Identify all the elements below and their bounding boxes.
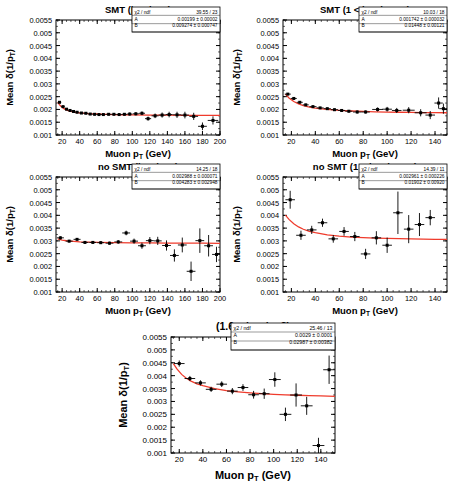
y-axis-label: Mean δ(1/pT)	[231, 49, 243, 106]
y-tick-label: 0.0025	[143, 410, 168, 419]
y-tick-label: 0.001	[34, 131, 53, 140]
x-tick-label: 180	[196, 294, 208, 303]
stat-value: 14.25 / 18	[196, 167, 218, 172]
y-tick-label: 0.002	[34, 262, 53, 271]
y-tick-label: 0.001	[147, 449, 168, 458]
stat-value: 0.01448 ± 0.00121	[405, 23, 445, 28]
y-tick-label: 0.0055	[143, 333, 168, 342]
x-tick-label: 160	[179, 137, 191, 146]
y-tick-label: 0.0035	[29, 224, 52, 233]
stat-value: 0.009274 ± 0.000747	[172, 23, 218, 28]
y-tick-label: 0.004	[147, 372, 168, 381]
y-tick-label: 0.001	[261, 288, 280, 297]
x-tick-label: 120	[405, 294, 417, 303]
x-tick-label: 60	[335, 137, 343, 146]
y-tick-label: 0.003	[261, 237, 280, 246]
y-tick-label: 0.0015	[256, 118, 279, 127]
y-tick-label: 0.0045	[256, 199, 279, 208]
y-tick-label: 0.005	[261, 29, 280, 38]
y-tick-label: 0.002	[261, 105, 280, 114]
stat-label: χ2 / ndf	[135, 167, 152, 172]
y-tick-label: 0.0025	[256, 250, 279, 259]
x-tick-label: 140	[429, 137, 441, 146]
x-tick-label: 40	[311, 137, 319, 146]
x-tick-label: 100	[381, 137, 393, 146]
panel-smt-eta-lt-1: SMT (|ηdet| < 1)0.0010.00150.0020.00250.…	[0, 0, 228, 165]
x-tick-label: 60	[335, 294, 343, 303]
y-axis-label: Mean δ(1/pT)	[4, 49, 16, 106]
y-tick-label: 0.0035	[143, 385, 168, 394]
y-tick-label: 0.0045	[143, 359, 168, 368]
y-tick-label: 0.003	[261, 80, 280, 89]
stat-value: 39.55 / 23	[196, 10, 218, 15]
stat-value: 0.004283 ± 0.002948	[172, 180, 218, 185]
plot-svg: no SMT (|ηdet| < 1)0.0010.00150.0020.002…	[0, 157, 228, 322]
y-tick-label: 0.001	[34, 288, 53, 297]
stat-label: B	[135, 23, 138, 28]
stat-label: B	[234, 339, 238, 345]
panel-eta-1p6-2: (1.6 < |ηdet| < 2)0.0010.00150.0020.0025…	[113, 315, 345, 487]
y-tick-label: 0.0055	[256, 16, 279, 25]
y-tick-label: 0.0015	[143, 436, 168, 445]
y-tick-label: 0.001	[261, 131, 280, 140]
x-tick-label: 20	[58, 137, 66, 146]
stats-box: χ2 / ndf39.55 / 23A0.00199 ± 0.00002B0.0…	[132, 7, 220, 32]
stats-box: χ2 / ndf25.46 / 13A0.0029 ± 0.0001B0.029…	[231, 323, 335, 350]
x-tick-label: 140	[161, 137, 173, 146]
y-tick-label: 0.0055	[29, 173, 52, 182]
y-tick-label: 0.0015	[29, 275, 52, 284]
y-tick-label: 0.004	[34, 211, 53, 220]
plot-svg: (1.6 < |ηdet| < 2)0.0010.00150.0020.0025…	[113, 315, 345, 487]
data-points	[174, 356, 335, 453]
y-tick-label: 0.004	[261, 54, 280, 63]
y-tick-label: 0.0045	[29, 42, 52, 51]
stat-value: 0.00199 ± 0.00002	[178, 17, 218, 22]
plot-frame	[283, 20, 447, 135]
stat-label: B	[135, 180, 138, 185]
fit-curve	[173, 364, 335, 397]
y-tick-label: 0.004	[261, 211, 280, 220]
y-tick-label: 0.003	[34, 80, 53, 89]
data-points	[285, 93, 447, 120]
fit-curve	[285, 94, 447, 113]
y-tick-label: 0.0035	[256, 224, 279, 233]
y-tick-label: 0.0015	[29, 118, 52, 127]
stat-value: 25.46 / 13	[309, 325, 332, 331]
y-tick-label: 0.0015	[256, 275, 279, 284]
x-tick-label: 40	[311, 294, 319, 303]
x-tick-label: 60	[93, 137, 101, 146]
x-tick-label: 80	[359, 294, 367, 303]
x-tick-label: 200	[214, 294, 226, 303]
stats-box: χ2 / ndf10.03 / 18A0.001742 ± 0.000032B0…	[359, 7, 447, 32]
y-tick-label: 0.0045	[256, 42, 279, 51]
stat-value: 0.02987 ± 0.00382	[289, 339, 332, 345]
data-points	[57, 228, 220, 281]
y-tick-label: 0.005	[34, 186, 53, 195]
x-tick-label: 120	[291, 455, 305, 464]
y-tick-label: 0.0055	[29, 16, 52, 25]
data-points	[285, 191, 435, 259]
x-tick-label: 100	[126, 294, 138, 303]
fit-curve	[285, 215, 447, 239]
y-tick-label: 0.0045	[29, 199, 52, 208]
x-tick-label: 20	[58, 294, 66, 303]
stat-value: 0.001742 ± 0.000032	[399, 17, 445, 22]
stat-value: 0.002988 ± 0.000071	[172, 174, 218, 179]
plot-svg: no SMT (1 < |ηdet| < 1.6)0.0010.00150.00…	[227, 157, 455, 322]
x-tick-label: 80	[359, 137, 367, 146]
y-tick-label: 0.004	[34, 54, 53, 63]
x-tick-label: 200	[214, 137, 226, 146]
stats-box: χ2 / ndf14.39 / 11A0.002961 ± 0.000226B0…	[359, 164, 447, 189]
y-tick-label: 0.005	[34, 29, 53, 38]
x-tick-label: 140	[161, 294, 173, 303]
x-tick-label: 40	[76, 294, 84, 303]
y-tick-label: 0.0025	[29, 250, 52, 259]
y-tick-label: 0.0055	[256, 173, 279, 182]
y-tick-label: 0.002	[147, 423, 168, 432]
x-tick-label: 100	[267, 455, 281, 464]
y-tick-label: 0.0035	[29, 67, 52, 76]
x-tick-label: 140	[429, 294, 441, 303]
x-tick-label: 80	[111, 137, 119, 146]
x-tick-label: 60	[93, 294, 101, 303]
stats-box: χ2 / ndf14.25 / 18A0.002988 ± 0.000071B0…	[132, 164, 220, 189]
